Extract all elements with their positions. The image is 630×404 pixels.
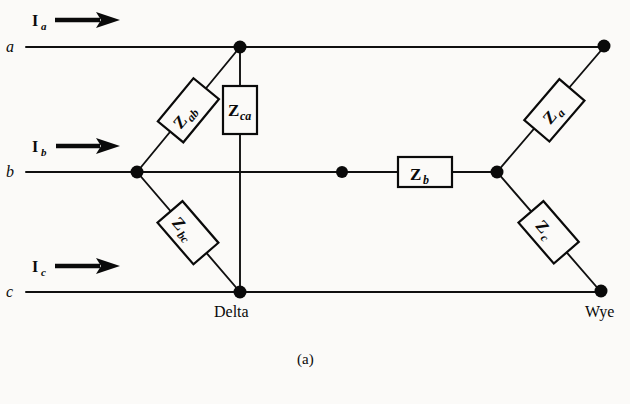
current-arrow-ic: I c — [32, 258, 120, 278]
current-arrow-ib: I b — [32, 138, 120, 158]
impedance-symbol-zb: Z — [410, 165, 421, 184]
node-wye-neutral — [491, 166, 504, 179]
impedance-symbol-zca: Z — [228, 101, 239, 120]
current-subscript-ic: c — [41, 266, 46, 278]
circuit-diagram: Z ca Z ab Z bc Z b Z a — [0, 0, 630, 404]
current-symbol-ib: I — [32, 138, 38, 155]
node-delta-a — [234, 41, 247, 54]
figure-caption: (a) — [297, 351, 314, 368]
figure-canvas: Z ca Z ab Z bc Z b Z a — [0, 0, 630, 404]
node-delta-b — [131, 166, 144, 179]
current-subscript-ia: a — [41, 20, 47, 32]
current-symbol-ic: I — [32, 258, 38, 275]
terminal-label-a: a — [6, 38, 14, 55]
network-label-delta: Delta — [214, 303, 249, 320]
current-symbol-ia: I — [32, 12, 38, 29]
node-line-b-mid — [336, 166, 348, 178]
node-delta-c — [234, 286, 247, 299]
network-label-wye: Wye — [585, 303, 614, 321]
current-subscript-ib: b — [41, 146, 47, 158]
node-wye-a — [598, 40, 611, 53]
impedance-subscript-zb: b — [423, 173, 429, 187]
terminal-label-c: c — [6, 283, 13, 300]
node-wye-c — [595, 285, 608, 298]
current-arrow-ia: I a — [32, 12, 120, 32]
impedance-subscript-zca: ca — [240, 109, 251, 123]
terminal-label-b: b — [6, 163, 14, 180]
